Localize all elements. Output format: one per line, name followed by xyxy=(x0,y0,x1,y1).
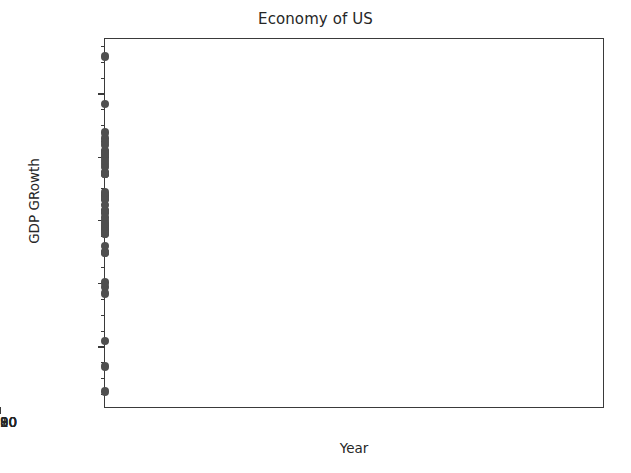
scatter-point xyxy=(101,128,110,137)
plot-area xyxy=(104,38,604,408)
x-tick-label: 2020 xyxy=(0,414,60,430)
chart-title: Economy of US xyxy=(0,10,631,28)
scatter-points-layer xyxy=(105,39,603,407)
scatter-point xyxy=(101,188,110,197)
scatter-point xyxy=(101,52,110,61)
y-axis-label: GDP GRowth xyxy=(26,101,42,301)
scatter-point xyxy=(101,337,110,346)
scatter-point xyxy=(101,387,110,396)
scatter-point xyxy=(101,278,110,287)
scatter-point xyxy=(101,100,110,109)
scatter-point xyxy=(101,169,110,178)
x-axis-label: Year xyxy=(104,440,604,456)
scatter-point xyxy=(101,362,110,371)
x-tick-mark xyxy=(0,407,1,414)
matplotlib-figure: Economy of US GDP GRowth Year −0.020.000… xyxy=(0,0,631,473)
